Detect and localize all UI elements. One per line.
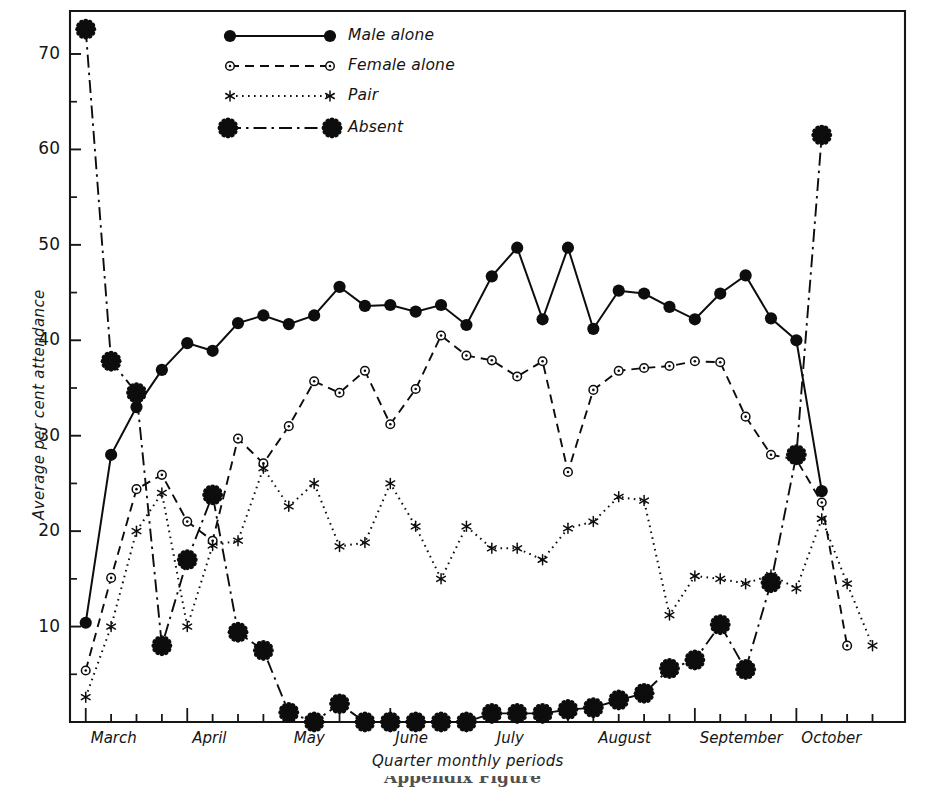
y-tick-label: 60 — [20, 138, 60, 158]
legend-label-pair: Pair — [348, 86, 378, 104]
y-tick-label: 50 — [20, 234, 60, 254]
series-absent — [78, 21, 830, 730]
axis-ticks — [70, 54, 873, 722]
y-tick-label: 30 — [20, 425, 60, 445]
legend-label-female-alone: Female alone — [348, 56, 455, 74]
attendance-figure: Average per cent attendance Quarter mont… — [0, 0, 925, 795]
month-label-september: September — [700, 729, 783, 747]
y-tick-label: 70 — [20, 43, 60, 63]
series-pair — [81, 463, 876, 702]
chart-canvas — [0, 0, 925, 795]
y-tick-label: 10 — [20, 616, 60, 636]
legend-label-absent: Absent — [348, 118, 403, 136]
x-axis-title: Quarter monthly periods — [372, 752, 564, 770]
series-male-alone — [80, 242, 828, 629]
month-label-may: May — [294, 729, 325, 747]
y-tick-label: 20 — [20, 520, 60, 540]
y-tick-label: 40 — [20, 329, 60, 349]
month-label-april: April — [192, 729, 226, 747]
data-series-group — [78, 21, 877, 730]
y-axis-title: Average per cent attendance — [30, 289, 48, 520]
month-label-august: August — [598, 729, 651, 747]
month-label-june: June — [395, 729, 428, 747]
figure-caption-strip: Appendix Figure — [0, 776, 925, 795]
month-label-march: March — [91, 729, 137, 747]
legend-symbols — [220, 30, 340, 136]
plot-frame — [70, 11, 905, 722]
legend-label-male-alone: Male alone — [348, 26, 434, 44]
month-label-july: July — [497, 729, 524, 747]
series-female-alone — [81, 331, 851, 675]
figure-caption: Appendix Figure — [384, 776, 541, 787]
month-label-october: October — [801, 729, 861, 747]
